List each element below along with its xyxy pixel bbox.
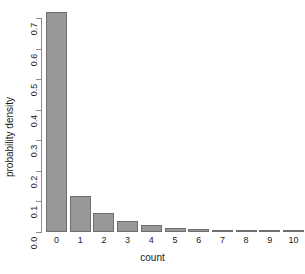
y-tick-label: 0.6 — [29, 49, 39, 71]
y-tick-label-wrap: 0.4 — [8, 105, 34, 115]
y-tick-label: 0.0 — [29, 232, 39, 254]
y-tick-label: 0.5 — [29, 79, 39, 101]
x-axis-label: count — [0, 252, 305, 263]
x-tick-label: 8 — [244, 235, 249, 245]
x-tick-label: 7 — [220, 235, 225, 245]
x-tick-label: 0 — [54, 235, 59, 245]
y-tick-label-wrap: 0.6 — [8, 44, 34, 54]
x-tick-label: 9 — [267, 235, 272, 245]
x-tick-label: 2 — [101, 235, 106, 245]
y-tick-label: 0.1 — [29, 201, 39, 223]
x-tick-label: 3 — [125, 235, 130, 245]
bar — [165, 228, 186, 232]
bar — [117, 221, 138, 232]
y-tick-label-wrap: 0.0 — [8, 227, 34, 237]
y-tick-label-wrap: 0.2 — [8, 166, 34, 176]
y-tick-label-wrap: 0.3 — [8, 135, 34, 145]
bar — [46, 12, 67, 232]
y-tick-label: 0.2 — [29, 171, 39, 193]
y-tick-label-wrap: 0.1 — [8, 196, 34, 206]
y-axis-line — [41, 18, 42, 233]
y-tick-label: 0.7 — [29, 18, 39, 40]
x-tick-label: 4 — [149, 235, 154, 245]
y-tick-label-wrap: 0.7 — [8, 13, 34, 23]
y-tick-label-wrap: 0.5 — [8, 74, 34, 84]
x-tick-label: 5 — [172, 235, 177, 245]
bar — [141, 225, 162, 232]
y-tick-label: 0.3 — [29, 140, 39, 162]
y-tick-label: 0.4 — [29, 110, 39, 132]
x-tick-label: 10 — [288, 235, 298, 245]
bar — [236, 230, 257, 232]
bar — [283, 230, 304, 232]
x-tick-label: 6 — [196, 235, 201, 245]
bar — [188, 229, 209, 232]
bar — [259, 230, 280, 232]
bar — [93, 213, 114, 232]
x-tick-label: 1 — [78, 235, 83, 245]
barplot-figure: probability density count 0.00.10.20.30.… — [0, 0, 305, 274]
bar — [212, 230, 233, 232]
bar — [70, 196, 91, 232]
